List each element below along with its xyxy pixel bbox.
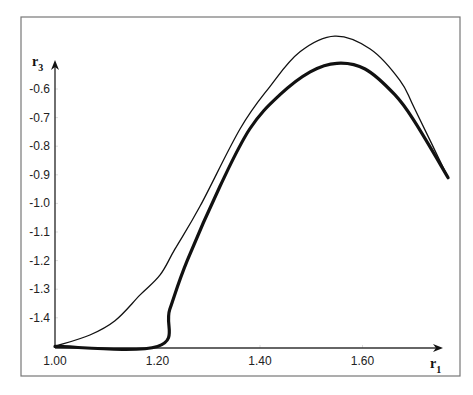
y-tick-label: -1.0	[29, 196, 50, 210]
x-tick-label: 1.60	[351, 354, 375, 368]
y-tick-label: -1.4	[29, 311, 50, 325]
y-tick-label: -0.7	[29, 111, 50, 125]
y-tick-label: -1.3	[29, 282, 50, 296]
y-tick-label: -0.8	[29, 139, 50, 153]
x-tick-label: 1.40	[248, 354, 272, 368]
y-tick-label: -0.9	[29, 168, 50, 182]
y-tick-label: -1.2	[29, 254, 50, 268]
chart-canvas: -0.6-0.7-0.8-0.9-1.0-1.1-1.2-1.3-1.4 1.0…	[0, 0, 473, 395]
x-tick-label: 1.00	[43, 354, 67, 368]
chart-frame	[21, 17, 460, 376]
y-tick-label: -0.6	[29, 82, 50, 96]
y-tick-label: -1.1	[29, 225, 50, 239]
x-tick-label: 1.20	[146, 354, 170, 368]
